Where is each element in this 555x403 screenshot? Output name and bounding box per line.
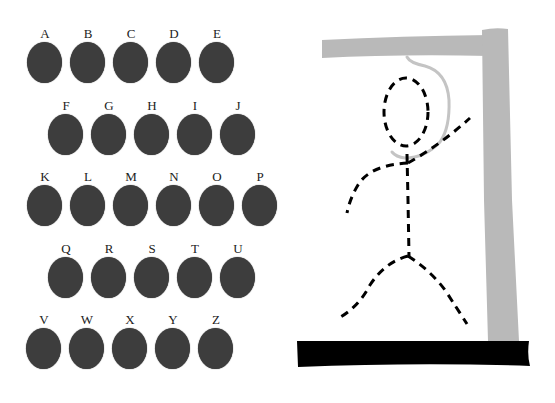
letter-key-h[interactable]: H [134,99,170,155]
figure-right-leg [408,256,467,324]
letter-key-d[interactable]: D [156,27,192,83]
letter-key-label: S [134,242,170,256]
figure-head [384,78,428,146]
letter-key-button[interactable] [91,114,126,155]
letter-key-button[interactable] [220,114,255,155]
letter-key-button[interactable] [70,185,105,226]
letter-key-label: E [199,27,235,41]
letter-key-s[interactable]: S [134,242,170,298]
letter-key-e[interactable]: E [199,27,235,83]
letter-key-label: Q [48,242,84,256]
figure-body [407,154,409,256]
letter-key-m[interactable]: M [113,170,149,226]
letter-key-label: T [177,242,213,256]
letter-key-label: H [134,99,170,113]
letter-key-z[interactable]: Z [198,313,234,369]
letter-key-button[interactable] [26,328,61,369]
letter-key-p[interactable]: P [242,170,278,226]
letter-key-n[interactable]: N [156,170,192,226]
letter-key-button[interactable] [199,185,234,226]
gallows-base [297,341,530,367]
letter-key-button[interactable] [177,257,212,298]
letter-key-g[interactable]: G [91,99,127,155]
letter-key-label: R [91,242,127,256]
gallows-drawing [290,0,555,403]
letter-key-button[interactable] [48,257,83,298]
letter-key-label: G [91,99,127,113]
letter-key-button[interactable] [27,42,62,83]
letter-key-button[interactable] [242,185,277,226]
letter-key-label: Z [198,313,234,327]
letter-key-button[interactable] [156,185,191,226]
gallows-post [482,28,519,341]
letter-key-label: F [48,99,84,113]
letter-key-label: I [177,99,213,113]
letter-key-button[interactable] [113,185,148,226]
letter-key-label: L [70,170,106,184]
letter-key-label: M [113,170,149,184]
hangman-gallows [290,0,555,403]
gallows-top-beam [322,35,490,58]
letter-key-button[interactable] [69,328,104,369]
letter-key-r[interactable]: R [91,242,127,298]
figure-left-arm [347,163,408,213]
letter-key-label: W [69,313,105,327]
letter-key-button[interactable] [134,257,169,298]
letter-key-button[interactable] [220,257,255,298]
letter-key-label: X [112,313,148,327]
letter-key-button[interactable] [134,114,169,155]
letter-key-y[interactable]: Y [155,313,191,369]
letter-key-f[interactable]: F [48,99,84,155]
letter-key-label: J [220,99,256,113]
letter-key-c[interactable]: C [113,27,149,83]
letter-key-w[interactable]: W [69,313,105,369]
letter-key-label: U [220,242,256,256]
letter-key-button[interactable] [70,42,105,83]
letter-key-t[interactable]: T [177,242,213,298]
letter-key-button[interactable] [177,114,212,155]
letter-key-label: A [27,27,63,41]
letter-key-button[interactable] [112,328,147,369]
letter-key-k[interactable]: K [27,170,63,226]
letter-key-q[interactable]: Q [48,242,84,298]
letter-key-v[interactable]: V [26,313,62,369]
letter-key-x[interactable]: X [112,313,148,369]
letter-key-label: N [156,170,192,184]
letter-key-label: C [113,27,149,41]
letter-key-a[interactable]: A [27,27,63,83]
letter-key-label: D [156,27,192,41]
letter-key-l[interactable]: L [70,170,106,226]
figure-left-leg [337,256,408,319]
letter-key-b[interactable]: B [70,27,106,83]
letter-key-button[interactable] [198,328,233,369]
letter-key-button[interactable] [27,185,62,226]
letter-key-button[interactable] [199,42,234,83]
letter-key-button[interactable] [156,42,191,83]
gallows-rope [392,57,449,158]
letter-key-o[interactable]: O [199,170,235,226]
letter-key-label: K [27,170,63,184]
letter-key-u[interactable]: U [220,242,256,298]
letter-key-label: V [26,313,62,327]
letter-key-j[interactable]: J [220,99,256,155]
letter-key-button[interactable] [48,114,83,155]
letter-key-button[interactable] [91,257,126,298]
letter-key-i[interactable]: I [177,99,213,155]
letter-keyboard: ABCDEFGHIJKLMNOPQRSTUVWXYZ [0,0,290,403]
letter-key-label: P [242,170,278,184]
letter-key-label: O [199,170,235,184]
letter-key-label: Y [155,313,191,327]
letter-key-label: B [70,27,106,41]
letter-key-button[interactable] [155,328,190,369]
letter-key-button[interactable] [113,42,148,83]
